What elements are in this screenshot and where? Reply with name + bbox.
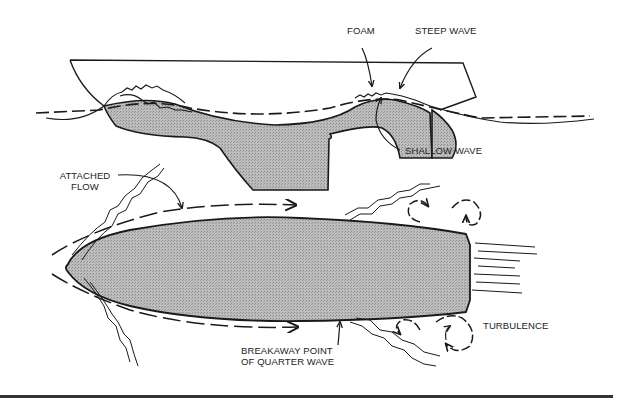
foam-leader: [362, 48, 372, 86]
breakaway-leader: [338, 322, 340, 345]
stern-turbulence-top: [345, 184, 440, 220]
eddy-top-2: [452, 200, 481, 225]
eddy-top-1: [408, 200, 428, 222]
bottom-rule: [0, 395, 613, 398]
label-breakaway-line1: BREAKAWAY POINT: [241, 345, 334, 356]
label-foam: FOAM: [347, 25, 375, 36]
plan-view: [52, 164, 537, 366]
label-turbulence: TURBULENCE: [483, 320, 548, 331]
hull-plan: [66, 217, 470, 321]
label-breakaway: BREAKAWAY POINT OF QUARTER WAVE: [241, 345, 334, 367]
label-attached-flow-line1: ATTACHED: [52, 170, 118, 181]
stern-turbulence-bottom: [350, 318, 440, 366]
eddy-bottom-1: [396, 320, 420, 334]
label-shallow-wave: SHALLOW WAVE: [405, 145, 482, 156]
steep-wave-leader: [400, 48, 432, 88]
side-view: [36, 48, 594, 190]
eddy-bottom-2-arrow: [446, 326, 451, 340]
label-steep-wave: STEEP WAVE: [415, 25, 477, 36]
hull-flow-diagram: [0, 0, 617, 403]
hull-underwater: [104, 99, 432, 190]
stern-wake: [472, 243, 537, 293]
eddy-bottom-2: [436, 316, 473, 351]
label-attached-flow: ATTACHED FLOW: [52, 170, 118, 192]
attached-flow-leader: [118, 175, 182, 208]
label-attached-flow-line2: FLOW: [52, 181, 118, 192]
label-breakaway-line2: OF QUARTER WAVE: [241, 356, 334, 367]
